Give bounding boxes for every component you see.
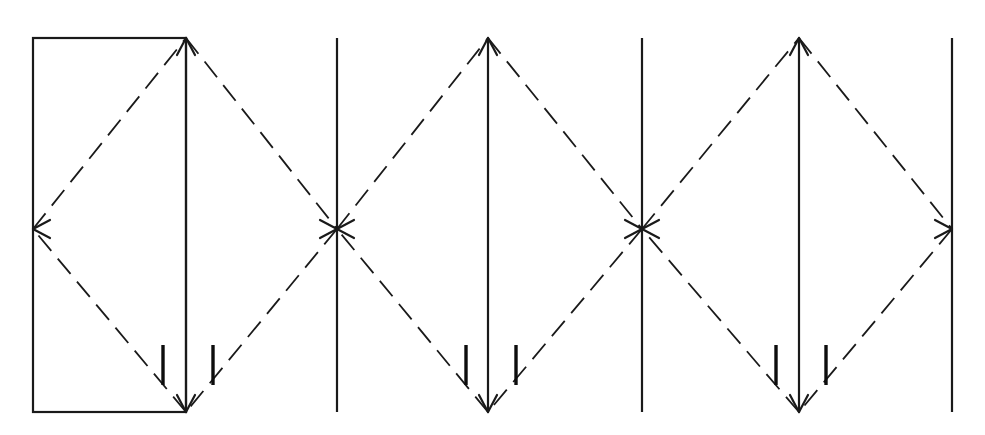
lattice-diagram-svg: [0, 0, 985, 435]
diagram-canvas: [0, 0, 985, 435]
diagram-background: [0, 0, 985, 435]
